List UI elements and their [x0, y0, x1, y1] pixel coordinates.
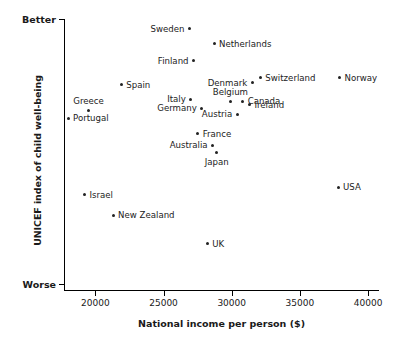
data-point-label: Austria: [202, 110, 232, 119]
data-point: [337, 186, 340, 189]
data-point: [83, 193, 86, 196]
scatter-plot: UNICEF index of child well-being Better …: [0, 0, 413, 341]
data-point-label: Australia: [170, 141, 208, 150]
data-point-label: Japan: [205, 158, 229, 167]
x-tick-label: 20000: [65, 298, 125, 308]
data-point: [229, 100, 232, 103]
x-tick: [300, 291, 301, 296]
data-point-label: Spain: [126, 81, 150, 90]
data-point: [87, 109, 90, 112]
data-point-label: UK: [212, 240, 224, 249]
data-point: [206, 242, 209, 245]
x-tick: [164, 291, 165, 296]
y-tick-better: [59, 19, 64, 20]
data-point: [236, 113, 239, 116]
y-tick-label-better: Better: [0, 14, 56, 25]
data-point: [215, 151, 218, 154]
data-point-label: France: [203, 130, 232, 139]
x-tick-label: 25000: [134, 298, 194, 308]
data-point-label: Ireland: [254, 101, 284, 110]
x-axis-line: [64, 290, 379, 291]
data-point-label: Portugal: [73, 114, 109, 123]
x-tick-label: 35000: [270, 298, 330, 308]
data-point-label: Finland: [158, 57, 189, 66]
data-point: [189, 98, 192, 101]
x-tick: [232, 291, 233, 296]
y-axis-line: [64, 19, 65, 291]
data-point: [259, 76, 262, 79]
data-point: [251, 81, 254, 84]
data-point: [338, 76, 341, 79]
data-point-label: New Zealand: [118, 211, 174, 220]
data-point-label: USA: [343, 183, 361, 192]
data-point-label: Germany: [157, 104, 197, 113]
data-point: [120, 83, 123, 86]
x-tick-label: 30000: [202, 298, 262, 308]
data-point: [213, 42, 216, 45]
data-point: [196, 132, 199, 135]
data-point-label: Sweden: [151, 25, 185, 34]
data-point-label: Norway: [344, 74, 377, 83]
data-point-label: Netherlands: [219, 40, 271, 49]
data-point: [67, 117, 70, 120]
data-point-label: Denmark: [208, 79, 248, 88]
x-axis-label: National income per person ($): [64, 318, 379, 329]
data-point: [211, 144, 214, 147]
y-tick-label-worse: Worse: [0, 279, 56, 290]
y-tick-worse: [59, 284, 64, 285]
data-point: [192, 59, 195, 62]
data-point-label: Switzerland: [265, 74, 315, 83]
data-point-label: Belgium: [213, 88, 248, 97]
x-tick: [368, 291, 369, 296]
y-axis-label: UNICEF index of child well-being: [32, 46, 43, 276]
data-point: [241, 100, 244, 103]
x-tick-label: 40000: [338, 298, 398, 308]
data-point-label: Greece: [73, 97, 104, 106]
data-point: [188, 27, 191, 30]
data-point: [112, 214, 115, 217]
data-point-label: Israel: [89, 191, 113, 200]
x-tick: [95, 291, 96, 296]
